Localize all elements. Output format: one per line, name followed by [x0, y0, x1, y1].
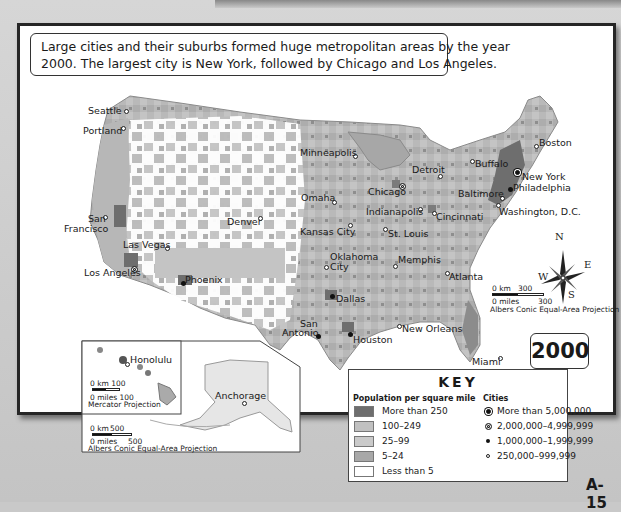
legend-label-more-than-5m: More than 5,000,000: [497, 406, 591, 417]
main-projection-label: Albers Conic Equal-Area Projection: [490, 306, 619, 314]
legend-population-header: Population per square mile: [353, 394, 475, 403]
legend-label-5-24: 5–24: [382, 451, 404, 462]
legend-label-250k-1m: 250,000–999,999: [497, 451, 576, 462]
city-label-portland: Portland: [83, 126, 122, 136]
city-label-las-vegas: Las Vegas: [123, 240, 171, 250]
city-dot-oklahoma-city: [324, 265, 329, 270]
sparse-west-region: [125, 116, 305, 330]
compass-e-label: E: [584, 260, 591, 270]
legend-label-1m-2m: 1,000,000–1,999,999: [497, 436, 593, 447]
city-dot-new-york: [515, 170, 520, 175]
city-label-houston: Houston: [353, 335, 392, 345]
legend-swatch-25-99: [354, 436, 374, 447]
city-label-memphis: Memphis: [398, 255, 441, 265]
legend-swatch-5-24: [354, 451, 374, 462]
city-dot-dallas: [330, 294, 335, 299]
legend-swatch-less-than-5: [354, 466, 374, 477]
legend-title: KEY: [349, 374, 567, 390]
legend-symbol-more-than-5m: [486, 409, 491, 414]
main-scale-km-value: 300: [518, 285, 532, 293]
hawaii-scale-bar: [92, 388, 120, 391]
legend-label-100-249: 100–249: [382, 421, 421, 432]
map-caption: Large cities and their suburbs formed hu…: [30, 33, 448, 76]
legend-cities-header: Cities: [483, 394, 508, 403]
compass-n-label: N: [555, 232, 564, 242]
city-label-washington-dc: Washington, D.C.: [499, 207, 581, 217]
city-dot-seattle: [124, 109, 129, 114]
city-label-los-angeles: Los Angeles: [84, 268, 141, 278]
alaska-scale-km: 0 km: [90, 425, 109, 433]
city-label-phoenix: Phoenix: [185, 275, 223, 285]
legend-swatch-more-than-250: [354, 406, 374, 417]
compass-s-label: S: [568, 290, 575, 300]
city-label-antonio: Antonio: [282, 328, 319, 338]
main-scale-bar: [492, 293, 544, 296]
city-label-denver: Denver: [227, 217, 262, 227]
alaska-projection-label: Albers Conic Equal-Area Projection: [88, 445, 217, 453]
caption-line-1: Large cities and their suburbs formed hu…: [41, 38, 447, 55]
compass-w-label: W: [538, 272, 548, 282]
city-label-new-york: New York: [522, 172, 566, 182]
legend-symbol-1m-2m: [486, 439, 490, 443]
city-label-cincinnati: Cincinnati: [436, 212, 483, 222]
legend-symbol-2m-5m: [485, 423, 492, 430]
legend-swatch-100-249: [354, 421, 374, 432]
alaska-scale-km-value: 500: [110, 425, 124, 433]
city-label-detroit: Detroit: [412, 165, 445, 175]
hawaii-scale-km: 0 km 100: [90, 380, 126, 388]
city-label-omaha: Omaha: [301, 193, 335, 203]
city-label-dallas: Dallas: [336, 294, 365, 304]
city-label-boston: Boston: [539, 138, 572, 148]
city-label-francisco: Francisco: [64, 224, 108, 234]
city-dot-anchorage: [242, 401, 247, 406]
legend-label-2m-5m: 2,000,000–4,999,999: [497, 421, 593, 432]
alaska-scale-bar: [92, 433, 132, 436]
city-label-st-louis: St. Louis: [388, 229, 428, 239]
city-label-new-orleans: New Orleans: [402, 324, 462, 334]
legend-label-less-than-5: Less than 5: [382, 466, 434, 477]
city-label-buffalo: Buffalo: [475, 159, 508, 169]
city-label-baltimore: Baltimore: [458, 189, 504, 199]
city-label-kansas-city: Kansas City: [300, 227, 355, 237]
legend-label-25-99: 25–99: [382, 436, 409, 447]
city-label-seattle: Seattle: [88, 106, 122, 116]
page-number: A-15: [586, 476, 621, 512]
city-label-atlanta: Atlanta: [449, 272, 483, 282]
caption-line-2: 2000. The largest city is New York, foll…: [41, 55, 447, 72]
legend-symbol-250k-1m: [486, 454, 490, 458]
year-label: 2000: [530, 333, 589, 369]
main-scale-km: 0 km: [492, 285, 511, 293]
city-label-chicago: Chicago: [368, 187, 406, 197]
hawaii-projection-label: Mercator Projection: [88, 401, 161, 409]
map-legend: KEY Population per square mile Cities Mo…: [348, 369, 568, 482]
city-label-honolulu: Honolulu: [130, 355, 172, 365]
city-label-minneapolis: Minneapolis: [300, 148, 357, 158]
legend-label-more-than-250: More than 250: [382, 406, 448, 417]
city-label-philadelphia: Philadelphia: [513, 183, 571, 193]
city-label-miami: Miami: [472, 357, 501, 367]
city-label-anchorage: Anchorage: [215, 391, 266, 401]
city-label-city: City: [330, 262, 349, 272]
city-label-indianapolis: Indianapolis: [366, 207, 423, 217]
